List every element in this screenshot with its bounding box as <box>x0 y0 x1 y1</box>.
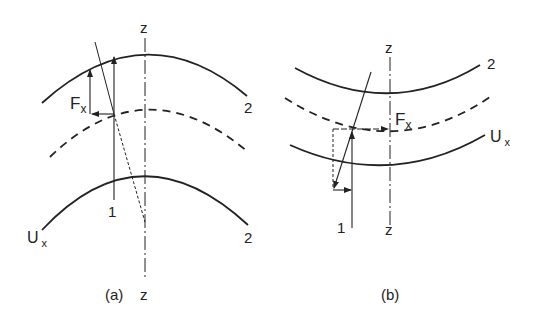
line-label-1-a: 1 <box>108 203 116 220</box>
diagram-canvas: z z 2 2 Ux 1 Fx (a) z z 2 <box>0 0 539 310</box>
z-label-top-b: z <box>385 39 393 56</box>
force-label-a: Fx <box>70 94 86 116</box>
line-label-1-b: 1 <box>337 219 345 236</box>
ux-label-a: Ux <box>27 229 48 249</box>
curve-label-2-top-a: 2 <box>244 99 252 116</box>
curve-ux-b <box>290 135 485 165</box>
force-label-b: Fx <box>395 110 411 132</box>
curve-dashed-b <box>285 97 490 131</box>
z-label-bottom-b: z <box>385 221 393 238</box>
panel-b: z z 2 Ux 1 Fx (b) <box>285 39 511 303</box>
curve-label-2-bottom-a: 2 <box>244 229 252 246</box>
caption-b: (b) <box>381 286 399 303</box>
caption-a: (a) <box>105 286 123 303</box>
panel-a: z z 2 2 Ux 1 Fx (a) <box>27 19 252 303</box>
z-label-bottom-a: z <box>140 286 148 303</box>
ux-label-b: Ux <box>490 128 511 148</box>
curve-dashed-a <box>50 110 248 157</box>
z-label-top-a: z <box>140 19 148 36</box>
curve-label-2-b: 2 <box>487 55 495 72</box>
slant-line-a <box>95 42 114 114</box>
slant-line-dashed-a <box>114 114 145 222</box>
curve-top-b <box>295 65 480 93</box>
